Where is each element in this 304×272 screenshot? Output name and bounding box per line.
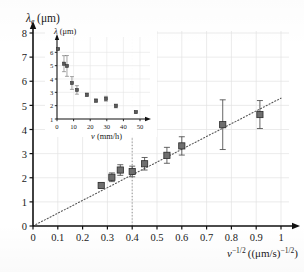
main-x-axis-title: v−1/2((μm/s)−1/2) xyxy=(227,246,298,261)
x-tick-label: 0.6 xyxy=(175,232,188,243)
data-point-marker[interactable] xyxy=(164,152,170,158)
inset-x-tick-label: 40 xyxy=(120,123,127,130)
data-point-marker[interactable] xyxy=(129,168,135,174)
chart-svg: 01234567800.10.20.30.40.50.60.70.80.91λe… xyxy=(0,0,304,272)
y-tick-label: 2 xyxy=(22,173,27,184)
main-y-axis-title: λe(μm) xyxy=(25,12,60,26)
data-point-marker[interactable] xyxy=(179,143,185,149)
x-tick-label: 0.7 xyxy=(200,232,213,243)
x-axis-title: v−1/2((μm/s)−1/2) xyxy=(227,246,298,261)
inset-x-tick-label: 30 xyxy=(104,123,111,130)
figure-container: 01234567800.10.20.30.40.50.60.70.80.91λe… xyxy=(0,0,304,272)
x-tick-label: 0.3 xyxy=(101,232,114,243)
y-tick-label: 7 xyxy=(22,52,27,63)
inset-data-point-marker[interactable] xyxy=(134,110,137,113)
data-point-marker[interactable] xyxy=(142,161,148,167)
x-tick-label: 0.2 xyxy=(76,232,89,243)
y-tick-label: 8 xyxy=(22,28,27,39)
inset-data-point-marker[interactable] xyxy=(56,47,59,50)
x-tick-label: 0 xyxy=(30,232,35,243)
main-x-ticks: 00.10.20.30.40.50.60.70.80.91 xyxy=(30,226,283,243)
y-tick-label: 5 xyxy=(22,101,27,112)
inset-data-point-marker[interactable] xyxy=(70,81,73,84)
data-point-marker[interactable] xyxy=(220,122,226,128)
x-tick-label: 0.4 xyxy=(126,232,140,243)
inset-data-point-marker[interactable] xyxy=(85,93,88,96)
inset-x-tick-label: 20 xyxy=(87,123,94,130)
inset-y-axis-title: λ(μm) xyxy=(53,27,77,36)
data-point-marker[interactable] xyxy=(257,111,263,117)
x-tick-label: 1 xyxy=(278,232,283,243)
y-tick-label: 3 xyxy=(22,149,27,160)
data-point-marker[interactable] xyxy=(109,174,115,180)
inset-data-point-marker[interactable] xyxy=(94,99,97,102)
y-tick-label: 1 xyxy=(22,197,27,208)
x-tick-label: 0.9 xyxy=(250,232,263,243)
inset-y-tick-label: 1 xyxy=(50,116,53,123)
x-tick-label: 0.5 xyxy=(150,232,163,243)
x-tick-label: 0.8 xyxy=(225,232,238,243)
inset-data-point-marker[interactable] xyxy=(65,64,68,67)
inset-x-tick-label: 10 xyxy=(70,123,77,130)
x-tick-label: 0.1 xyxy=(51,232,64,243)
data-point-marker[interactable] xyxy=(117,167,123,173)
main-y-ticks: 012345678 xyxy=(22,28,33,232)
inset-data-point-marker[interactable] xyxy=(75,88,78,91)
y-tick-label: 0 xyxy=(22,221,27,232)
inset-x-tick-label: 50 xyxy=(137,123,144,130)
inset-y-tick-label: 2 xyxy=(50,102,53,109)
inset-data-point-marker[interactable] xyxy=(104,97,107,100)
y-tick-label: 6 xyxy=(22,76,27,87)
y-axis-title: λe(μm) xyxy=(25,12,60,26)
inset-data-point-marker[interactable] xyxy=(114,104,117,107)
x-axis-arrow xyxy=(292,223,300,229)
y-tick-label: 4 xyxy=(22,125,28,136)
inset-data-point-marker[interactable] xyxy=(62,62,65,65)
data-point-marker[interactable] xyxy=(98,182,104,188)
